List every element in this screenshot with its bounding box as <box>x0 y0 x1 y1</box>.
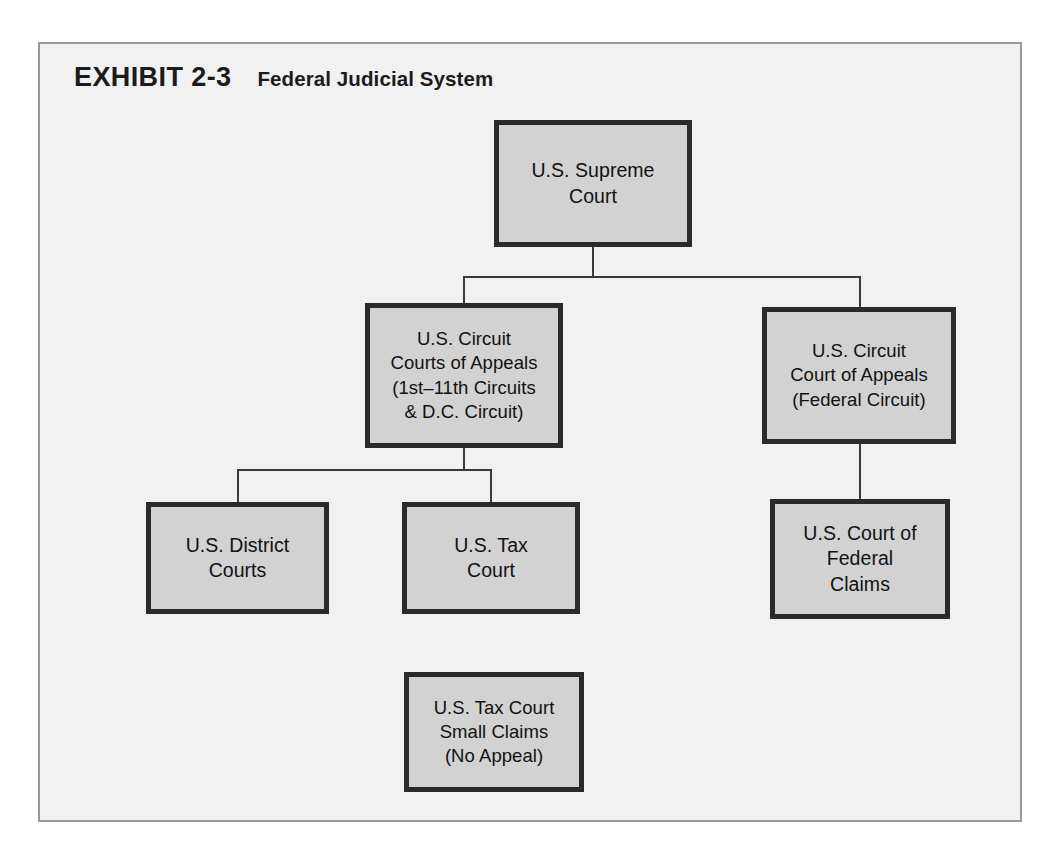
node-circuit-court-of-appeals-federal[interactable]: U.S. Circuit Court of Appeals (Federal C… <box>762 307 956 444</box>
connector-circuit-federal-to-federal-claims <box>859 444 861 500</box>
node-tax-court-label: U.S. Tax Court <box>454 533 528 584</box>
node-supreme-court[interactable]: U.S. Supreme Court <box>494 120 692 247</box>
federal-judicial-system-diagram: U.S. Supreme Court U.S. Circuit Courts o… <box>40 44 1022 822</box>
exhibit-frame: EXHIBIT 2-3 Federal Judicial System U.S.… <box>38 42 1022 822</box>
connector-level1-bus <box>463 276 860 278</box>
node-district-courts[interactable]: U.S. District Courts <box>146 502 329 614</box>
connector-bus-to-district-courts <box>237 469 239 503</box>
connector-bus-to-tax-court <box>490 469 492 503</box>
connector-supreme-to-bus <box>592 247 594 277</box>
node-tax-court-small-claims-label: U.S. Tax Court Small Claims (No Appeal) <box>434 696 555 768</box>
connector-bus-to-circuit-federal <box>859 276 861 308</box>
node-circuit-courts-of-appeals[interactable]: U.S. Circuit Courts of Appeals (1st–11th… <box>365 303 563 448</box>
node-supreme-court-label: U.S. Supreme Court <box>531 158 654 209</box>
node-district-courts-label: U.S. District Courts <box>186 533 290 584</box>
connector-level2-bus <box>237 469 491 471</box>
node-circuit-court-of-appeals-federal-label: U.S. Circuit Court of Appeals (Federal C… <box>790 339 928 411</box>
connector-bus-to-circuit-appeals <box>463 276 465 304</box>
node-circuit-courts-of-appeals-label: U.S. Circuit Courts of Appeals (1st–11th… <box>391 327 538 423</box>
node-court-of-federal-claims-label: U.S. Court of Federal Claims <box>803 521 916 597</box>
node-court-of-federal-claims[interactable]: U.S. Court of Federal Claims <box>770 499 950 619</box>
node-tax-court-small-claims[interactable]: U.S. Tax Court Small Claims (No Appeal) <box>404 672 584 792</box>
connector-circuit-appeals-to-bus <box>463 448 465 470</box>
node-tax-court[interactable]: U.S. Tax Court <box>402 502 580 614</box>
